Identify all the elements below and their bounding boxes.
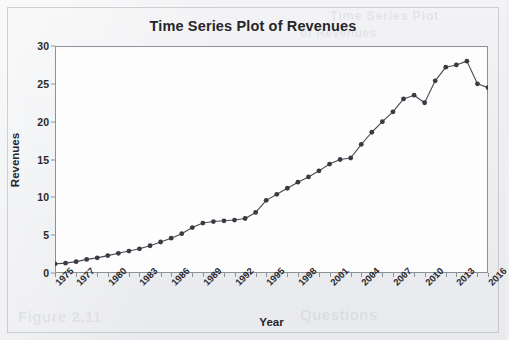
data-point-marker bbox=[433, 78, 438, 83]
data-point-marker bbox=[412, 93, 417, 98]
data-point-marker bbox=[264, 198, 269, 203]
data-point-marker bbox=[296, 180, 301, 185]
y-axis-tick-label: 20 bbox=[37, 116, 49, 128]
x-axis-tick-mark bbox=[97, 273, 98, 277]
chart-title: Time Series Plot of Revenues bbox=[8, 18, 498, 34]
data-point-marker bbox=[306, 175, 311, 180]
series-line-revenues bbox=[55, 46, 488, 273]
data-point-marker bbox=[422, 100, 427, 105]
data-point-marker bbox=[359, 142, 364, 147]
data-point-marker bbox=[454, 63, 459, 68]
data-point-marker bbox=[348, 156, 353, 161]
y-axis-tick-label: 25 bbox=[37, 78, 49, 90]
x-axis-tick-mark bbox=[319, 273, 320, 277]
x-axis-tick-mark bbox=[477, 273, 478, 277]
data-point-marker bbox=[380, 119, 385, 124]
data-point-marker bbox=[55, 262, 57, 267]
data-point-marker bbox=[200, 221, 205, 226]
x-axis-tick-mark bbox=[161, 273, 162, 277]
data-point-marker bbox=[443, 65, 448, 70]
y-axis-tick-label: 0 bbox=[43, 267, 49, 279]
x-axis-tick-mark bbox=[446, 273, 447, 277]
data-point-marker bbox=[464, 59, 469, 64]
chart-figure: Time Series Plot of Revenues Revenues 05… bbox=[8, 8, 498, 332]
data-point-marker bbox=[179, 231, 184, 236]
y-axis-tick-label: 5 bbox=[43, 229, 49, 241]
data-point-marker bbox=[274, 192, 279, 197]
data-point-marker bbox=[391, 109, 396, 114]
data-point-marker bbox=[127, 249, 132, 254]
x-axis-tick-mark bbox=[224, 273, 225, 277]
y-axis-tick-label: 10 bbox=[37, 191, 49, 203]
data-point-marker bbox=[105, 253, 110, 258]
x-axis-tick-mark bbox=[414, 273, 415, 277]
plot-area: Revenues 051015202530 197519771980198319… bbox=[55, 46, 488, 273]
data-point-marker bbox=[95, 255, 100, 260]
x-axis-tick-mark bbox=[382, 273, 383, 277]
x-axis-label: Year bbox=[259, 316, 283, 328]
data-point-marker bbox=[63, 261, 68, 266]
data-point-marker bbox=[169, 236, 174, 241]
data-point-marker bbox=[148, 243, 153, 248]
x-axis-tick-mark bbox=[351, 273, 352, 277]
x-axis-tick-mark bbox=[192, 273, 193, 277]
x-axis-tick-mark bbox=[256, 273, 257, 277]
data-point-marker bbox=[327, 162, 332, 167]
data-point-marker bbox=[190, 225, 195, 230]
series-polyline bbox=[55, 61, 488, 264]
data-point-marker bbox=[285, 186, 290, 191]
data-point-marker bbox=[317, 168, 322, 173]
data-point-marker bbox=[338, 157, 343, 162]
x-axis-tick-mark bbox=[287, 273, 288, 277]
data-point-marker bbox=[84, 257, 89, 262]
data-point-marker bbox=[253, 210, 258, 215]
data-point-marker bbox=[401, 97, 406, 102]
y-axis-label: Revenues bbox=[9, 132, 21, 186]
data-point-marker bbox=[475, 81, 480, 86]
data-point-marker bbox=[158, 240, 163, 245]
data-point-marker bbox=[116, 251, 121, 256]
data-point-marker bbox=[222, 218, 227, 223]
data-point-marker bbox=[232, 218, 237, 223]
data-point-marker bbox=[137, 246, 142, 251]
data-point-marker bbox=[243, 216, 248, 221]
data-point-marker bbox=[211, 219, 216, 224]
data-point-marker bbox=[74, 259, 79, 264]
data-point-marker bbox=[369, 130, 374, 135]
x-axis-tick-mark bbox=[129, 273, 130, 277]
y-axis-tick-label: 30 bbox=[37, 40, 49, 52]
y-axis-tick-label: 15 bbox=[37, 154, 49, 166]
data-point-marker bbox=[486, 85, 488, 90]
